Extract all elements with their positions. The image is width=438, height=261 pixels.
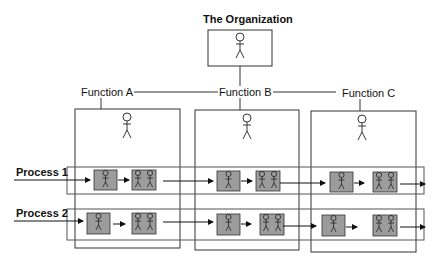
- person-icon: [358, 115, 366, 140]
- person-icon: [243, 114, 251, 139]
- function-c-label: Function C: [341, 87, 396, 99]
- organization-box: [208, 30, 272, 66]
- process-2-label: Process 2: [16, 207, 68, 219]
- process-1-label: Process 1: [16, 166, 68, 178]
- diagram-title: The Organization: [203, 13, 293, 25]
- org-diagram-canvas: [0, 0, 438, 261]
- process-1-steps: [94, 170, 425, 192]
- function-a-label: Function A: [80, 86, 134, 98]
- process-2-steps: [87, 213, 425, 236]
- person-icon: [123, 113, 131, 138]
- function-b-label: Function B: [218, 86, 273, 98]
